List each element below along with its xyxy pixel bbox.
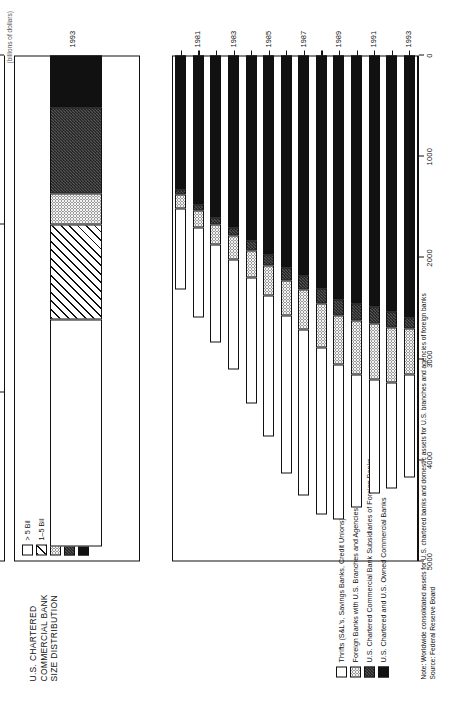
main-axis-line xyxy=(418,55,419,561)
main-bar-segment xyxy=(351,303,362,319)
main-year-tick xyxy=(251,50,252,55)
main-bar-segment xyxy=(228,227,239,236)
main-bar-segment xyxy=(298,55,309,275)
main-bar-segment xyxy=(316,55,327,288)
inset-plot-area xyxy=(14,55,140,561)
main-bar xyxy=(333,55,344,561)
main-year-tick xyxy=(409,50,410,55)
main-bar-segment xyxy=(193,210,204,226)
main-bar-segment xyxy=(228,235,239,258)
main-year-tick xyxy=(198,50,199,55)
main-bar-segment xyxy=(386,327,397,382)
main-bar-segment xyxy=(404,55,415,317)
inset-bar-segment xyxy=(50,55,102,107)
main-legend-swatch-icon xyxy=(350,666,361,677)
main-bar-segment xyxy=(281,55,292,267)
main-year-axis: 1981198319851987198919911993 xyxy=(172,21,418,55)
main-bar-segment xyxy=(263,254,274,265)
main-year-tick xyxy=(392,50,393,55)
figure-canvas: (billions of dollars) U.S. CHARTERED COM… xyxy=(0,0,450,703)
main-bar-segment xyxy=(175,208,186,289)
main-bar-segment xyxy=(316,303,327,347)
main-year-tick xyxy=(321,50,322,55)
inset-bar-segment xyxy=(50,319,102,546)
main-bar-segment xyxy=(404,317,415,328)
main-year-label: 1989 xyxy=(334,30,343,47)
main-axis-tick xyxy=(419,54,424,55)
main-bar-segment xyxy=(369,379,380,493)
inset-axis-tick xyxy=(0,223,4,224)
main-bar-segment xyxy=(246,55,257,240)
inset-axis-line xyxy=(4,55,5,561)
main-bar-segment xyxy=(193,227,204,317)
main-axis-tick-label: 0 xyxy=(425,43,434,67)
main-bar-segment xyxy=(246,240,257,249)
main-bar xyxy=(228,55,239,561)
main-bar-segment xyxy=(175,189,186,194)
main-bar-segment xyxy=(228,55,239,227)
main-year-label: 1985 xyxy=(264,30,273,47)
figure-note: Note: Worldwide consolidated assets for … xyxy=(420,293,428,679)
main-bar-segment xyxy=(281,315,292,473)
main-legend-swatch-icon xyxy=(378,666,389,677)
main-year-tick xyxy=(269,50,270,55)
main-bar-segment xyxy=(316,288,327,303)
main-bar-segment xyxy=(298,289,309,329)
inset-chart: U.S. CHARTERED COMMERCIAL BANK SIZE DIST… xyxy=(6,23,156,683)
main-bar xyxy=(175,55,186,561)
main-bar-segment xyxy=(333,55,344,299)
main-bar xyxy=(404,55,415,561)
main-bar-segment xyxy=(281,280,292,315)
main-bar-segment xyxy=(246,250,257,277)
main-bar xyxy=(263,55,274,561)
main-bar-segment xyxy=(246,277,257,404)
main-bar-segment xyxy=(386,382,397,489)
main-year-label: 1981 xyxy=(193,30,202,47)
main-legend-swatch-icon xyxy=(364,666,375,677)
main-bar xyxy=(369,55,380,561)
inset-category-label: 1993 xyxy=(68,30,77,47)
inset-bar-segment xyxy=(50,107,102,193)
main-axis-tick-label: 1000 xyxy=(425,144,434,168)
main-bar-segment xyxy=(333,299,344,315)
main-chart: Thrifts (S&L's, Savings Banks, Credit Un… xyxy=(168,23,434,683)
main-bar-segment xyxy=(175,55,186,189)
main-year-tick xyxy=(357,50,358,55)
main-bar xyxy=(246,55,257,561)
inset-axis: 3000200010000 xyxy=(4,55,16,561)
inset-axis-tick xyxy=(0,560,4,561)
main-year-tick xyxy=(216,50,217,55)
main-bar-segment xyxy=(193,55,204,204)
main-bar xyxy=(193,55,204,561)
main-bar-segment xyxy=(351,374,362,507)
main-axis-tick-label: 2000 xyxy=(425,245,434,269)
main-bar-segment xyxy=(386,55,397,311)
main-bar-segment xyxy=(298,329,309,494)
main-year-tick xyxy=(286,50,287,55)
main-year-label: 1987 xyxy=(299,30,308,47)
inset-bar-segment xyxy=(50,224,102,319)
main-plot-area xyxy=(172,55,418,561)
main-bar-segment xyxy=(210,217,221,225)
main-year-label: 1991 xyxy=(369,30,378,47)
figure-source: Source: Federal Reserve Board xyxy=(429,586,437,679)
main-bar-segment xyxy=(210,55,221,217)
main-bar-segment xyxy=(351,55,362,303)
main-bar xyxy=(351,55,362,561)
main-legend-swatch-icon xyxy=(336,666,347,677)
main-bar-segment xyxy=(298,275,309,289)
inset-bar-segment xyxy=(50,193,102,224)
main-bar-segment xyxy=(263,295,274,436)
main-year-label: 1993 xyxy=(404,30,413,47)
main-bar xyxy=(386,55,397,561)
main-bar-segment xyxy=(175,194,186,208)
main-bar-segment xyxy=(369,323,380,379)
main-year-tick xyxy=(374,50,375,55)
main-bar-segment xyxy=(404,374,415,477)
inset-axis-tick xyxy=(0,391,4,392)
main-year-tick xyxy=(339,50,340,55)
main-bar-segment xyxy=(351,320,362,374)
main-bar-segment xyxy=(369,306,380,323)
main-year-tick xyxy=(304,50,305,55)
main-year-tick xyxy=(181,50,182,55)
